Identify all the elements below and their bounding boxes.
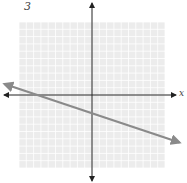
x-axis-label: x [179, 88, 184, 98]
coordinate-plane [0, 0, 187, 183]
